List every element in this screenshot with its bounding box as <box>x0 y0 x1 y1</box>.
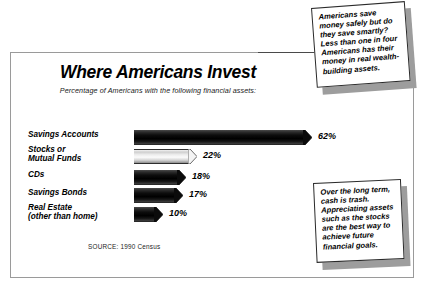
source-note: SOURCE: 1990 Census <box>88 243 160 250</box>
bar-body <box>134 170 178 185</box>
bar-value-label: 18% <box>192 171 210 181</box>
bar-category-label: Stocks or Mutual Funds <box>28 145 132 163</box>
bar-value-label: 62% <box>318 131 336 141</box>
bar-shape <box>134 149 197 164</box>
callout-bottom: Over the long term, cash is trash. Appre… <box>313 179 405 263</box>
bar-category-label: Savings Bonds <box>28 188 132 197</box>
bar-shape <box>134 130 312 145</box>
bar-arrow-tip-icon <box>177 170 186 185</box>
bar-shape <box>134 207 163 222</box>
bar-category-label: Savings Accounts <box>28 130 132 139</box>
bar-shape <box>134 188 183 203</box>
bar-value-label: 10% <box>169 208 187 218</box>
bar-body <box>134 130 304 145</box>
bar-category-label: CDs <box>28 170 132 179</box>
bar-body <box>134 149 189 164</box>
bar-value-label: 17% <box>189 189 207 199</box>
bar-value-label: 22% <box>203 150 221 160</box>
bar-arrow-tip-icon <box>188 149 197 164</box>
bar-body <box>134 207 155 222</box>
bar-body <box>134 188 175 203</box>
bar-category-label: Real Estate (other than home) <box>28 203 132 221</box>
callout-top: Americans save money safely but do they … <box>311 1 411 88</box>
bar-arrow-tip-icon <box>303 130 312 145</box>
bar-shape <box>134 170 186 185</box>
callout-connector-line <box>258 52 318 53</box>
bar-arrow-tip-icon <box>154 207 163 222</box>
bar-arrow-tip-icon <box>174 188 183 203</box>
